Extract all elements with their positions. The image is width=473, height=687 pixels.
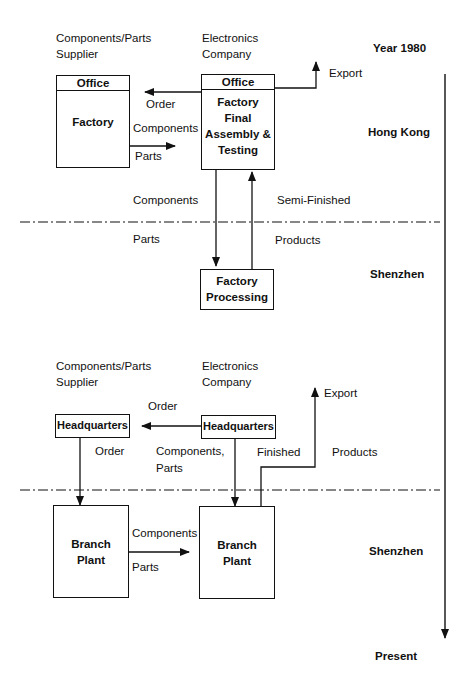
products-label: Products [275, 233, 320, 247]
order-label: Order [146, 97, 175, 111]
processing-line1: Factory [201, 273, 273, 289]
branch-left-line2: Plant [54, 552, 128, 568]
components-label: Components [133, 121, 198, 135]
branch-right-line1: Branch [200, 537, 274, 553]
company-office-factory-box: Office Factory Final Assembly & Testing [201, 74, 275, 170]
branch-left-line1: Branch [54, 536, 128, 552]
region-shenzhen-bottom: Shenzhen [369, 544, 423, 558]
parts-label: Parts [135, 149, 162, 163]
company-office-header: Office [202, 75, 274, 90]
parts-bottom-label: Parts [156, 461, 183, 475]
supplier-label-bottom-line2: Supplier [56, 375, 98, 389]
order-down-label: Order [95, 444, 124, 458]
processing-line2: Processing [201, 289, 273, 305]
factory-processing-box: Factory Processing [200, 269, 274, 310]
region-hong-kong: Hong Kong [368, 125, 430, 139]
supplier-office-header: Office [57, 76, 129, 91]
supplier-hq-label: Headquarters [56, 415, 129, 435]
branch-right-line2: Plant [200, 553, 274, 569]
down-parts-label: Parts [133, 232, 160, 246]
region-shenzhen-top: Shenzhen [370, 267, 424, 281]
year-1980-label: Year 1980 [373, 41, 426, 55]
branch-parts-label: Parts [132, 560, 159, 574]
company-final-label: Final [202, 110, 274, 126]
supplier-label-line2: Supplier [56, 47, 98, 61]
present-label: Present [375, 649, 417, 663]
branch-components-label: Components [132, 526, 197, 540]
supplier-headquarters-box: Headquarters [55, 414, 130, 438]
company-label-line2: Company [202, 47, 251, 61]
export-label-bottom: Export [324, 386, 357, 400]
components-comma-label: Components, [156, 444, 224, 458]
finished-label: Finished [257, 445, 300, 459]
supplier-office-factory-box: Office Factory [56, 75, 130, 168]
company-headquarters-box: Headquarters [201, 415, 276, 439]
company-testing-label: Testing [202, 142, 274, 158]
export-label: Export [329, 66, 362, 80]
order-top-label: Order [148, 399, 177, 413]
semi-finished-label: Semi-Finished [277, 193, 351, 207]
branch-plant-left-box: Branch Plant [53, 505, 129, 598]
company-label-bottom-line1: Electronics [202, 359, 258, 373]
company-label-bottom-line2: Company [202, 375, 251, 389]
company-hq-label: Headquarters [202, 416, 275, 436]
products-bottom-label: Products [332, 445, 377, 459]
supplier-label-bottom-line1: Components/Parts [56, 359, 151, 373]
supplier-label-line1: Components/Parts [56, 31, 151, 45]
company-label-line1: Electronics [202, 31, 258, 45]
company-factory-label: Factory [202, 94, 274, 110]
down-components-label: Components [133, 193, 198, 207]
branch-plant-right-box: Branch Plant [199, 506, 275, 599]
company-assembly-label: Assembly & [202, 126, 274, 142]
supplier-factory-label: Factory [57, 113, 129, 132]
